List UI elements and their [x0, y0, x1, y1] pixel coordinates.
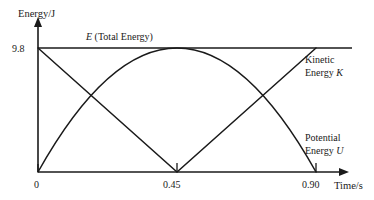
total-energy-annotation: E (Total Energy) [85, 31, 153, 43]
x-tick-label-mid: 0.45 [163, 179, 181, 190]
kinetic-energy-symbol: K [335, 67, 344, 78]
x-axis-arrowhead [339, 168, 349, 176]
y-axis-label: Energy/J [18, 8, 55, 19]
kinetic-energy-word: Energy [305, 67, 336, 78]
potential-energy-label-line1: Potential [305, 132, 341, 143]
kinetic-energy-annotation: Kinetic Energy K [305, 54, 344, 78]
total-energy-symbol: E [85, 31, 92, 42]
x-tick-label-end: 0.90 [302, 179, 320, 190]
energy-vs-time-chart: Energy/J 9.8 0 0.45 0.90 Time/s E (Total… [0, 0, 374, 200]
x-axis [38, 168, 349, 176]
chart-canvas: Energy/J 9.8 0 0.45 0.90 Time/s E (Total… [0, 0, 374, 200]
kinetic-energy-label-line2: Energy K [305, 67, 344, 78]
potential-energy-curve [38, 48, 316, 172]
x-tick-label-0: 0 [34, 179, 39, 190]
kinetic-energy-label-line1: Kinetic [305, 54, 335, 65]
y-axis [34, 17, 42, 172]
potential-energy-word: Energy [305, 145, 336, 156]
y-tick-label-max: 9.8 [12, 43, 25, 54]
potential-energy-annotation: Potential Energy U [305, 132, 344, 156]
x-axis-label: Time/s [334, 180, 363, 191]
potential-energy-symbol: U [336, 145, 344, 156]
kinetic-energy-line [38, 48, 316, 172]
potential-energy-label-line2: Energy U [305, 145, 344, 156]
total-energy-text: (Total Energy) [92, 31, 153, 43]
